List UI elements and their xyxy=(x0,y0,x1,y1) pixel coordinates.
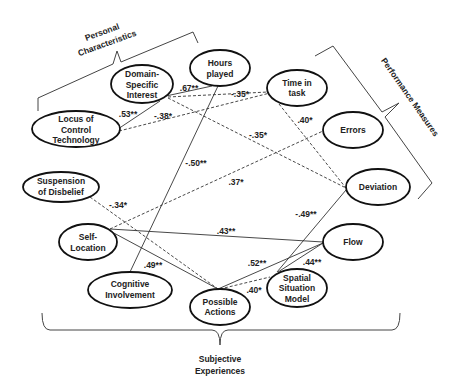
node-label: Suspension xyxy=(37,176,85,186)
node-label: Technology xyxy=(52,135,99,145)
node-label: Situation xyxy=(279,283,315,293)
edge-label: .52** xyxy=(248,258,267,268)
node-label: Locus of xyxy=(58,114,94,124)
edge-label: -.38* xyxy=(154,111,173,121)
edge-label: .67** xyxy=(180,83,199,93)
node-label: Deviation xyxy=(359,182,397,192)
correlation-diagram: Personal Characteristics Performance Mea… xyxy=(0,0,453,385)
node-label: Interest xyxy=(127,90,158,100)
edge-line-dashed xyxy=(220,277,270,289)
edge-selflocation-flow: .43** xyxy=(110,226,323,242)
node-label: Cognitive xyxy=(111,279,150,289)
edge-label: -.35* xyxy=(249,130,268,140)
edge-line-solid xyxy=(130,86,218,272)
node-time-in-task: Time in task xyxy=(267,70,327,106)
edge-label: .40* xyxy=(297,115,313,125)
edge-spatial-flow: .44** xyxy=(278,243,323,272)
node-label: played xyxy=(207,69,234,79)
subjective-experiences-label-line1: Subjective xyxy=(199,354,242,364)
node-label: Control xyxy=(61,125,91,135)
nodes: Domain- Specific Interest Hours played T… xyxy=(23,50,410,325)
node-cognitive-involvement: Cognitive Involvement xyxy=(88,272,172,308)
edge-label: .44** xyxy=(303,257,322,267)
node-errors: Errors xyxy=(323,112,383,148)
edge-label: -.35* xyxy=(231,89,250,99)
node-label: Location xyxy=(70,243,105,253)
node-possible-actions: Possible Actions xyxy=(190,289,250,325)
edge-line-dashed xyxy=(110,131,323,229)
node-label: Time in xyxy=(282,78,312,88)
node-domain-specific-interest: Domain- Specific Interest xyxy=(111,65,173,103)
performance-measures-label: Performance Measures xyxy=(379,56,441,139)
edge-label: -.34* xyxy=(109,200,128,210)
node-label: Self- xyxy=(79,232,98,242)
node-label: Possible xyxy=(203,297,238,307)
edge-hours-cognitive: -.50** xyxy=(130,86,218,272)
node-suspension-of-disbelief: Suspension of Disbelief xyxy=(23,172,99,202)
node-label: Involvement xyxy=(105,290,155,300)
node-label: Spatial xyxy=(283,273,311,283)
node-self-location: Self- Location xyxy=(59,224,117,260)
edge-label: -.49** xyxy=(295,209,317,219)
node-label: Errors xyxy=(340,125,366,135)
edge-label: .53** xyxy=(119,109,138,119)
personal-characteristics-group: Personal Characteristics xyxy=(38,21,198,111)
node-label: Specific xyxy=(126,80,159,90)
edge-label: .49** xyxy=(144,260,163,270)
node-label: Domain- xyxy=(125,69,159,79)
edge-label: .40* xyxy=(246,285,262,295)
edges: .67** -.35* -.35* .53** -.38* -.50** .37… xyxy=(90,83,346,295)
edge-label: .43** xyxy=(217,226,236,236)
node-label: Model xyxy=(285,294,310,304)
node-ellipse xyxy=(190,50,250,86)
node-hours-played: Hours played xyxy=(190,50,250,86)
node-deviation: Deviation xyxy=(346,169,410,205)
node-label: task xyxy=(288,88,305,98)
node-ellipse xyxy=(59,224,117,260)
edge-line-dashed xyxy=(168,98,346,188)
node-label: Actions xyxy=(204,307,235,317)
subjective-experiences-label-line2: Experiences xyxy=(195,366,245,376)
node-spatial-situation-model: Spatial Situation Model xyxy=(267,269,327,307)
edge-label: .37* xyxy=(228,177,244,187)
edge-dsi-deviation: -.35* xyxy=(168,98,346,188)
edge-selflocation-errors: .37* xyxy=(110,131,323,229)
node-label: Flow xyxy=(343,237,363,247)
node-locus-of-control: Locus of Control Technology xyxy=(32,111,120,147)
edge-label: -.50** xyxy=(185,158,207,168)
node-label: of Disbelief xyxy=(38,187,84,197)
node-flow: Flow xyxy=(323,224,383,260)
node-label: Hours xyxy=(208,58,233,68)
